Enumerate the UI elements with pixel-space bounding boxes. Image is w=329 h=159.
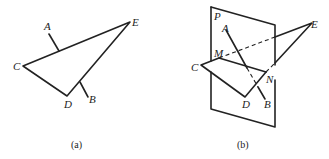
caption-b: (b) — [237, 139, 249, 151]
edge-e — [275, 23, 312, 63]
label-n: N — [265, 73, 274, 85]
caption-a: (a) — [71, 139, 82, 151]
label-d: D — [63, 98, 72, 110]
label-a: A — [221, 22, 229, 34]
figure-a: A E C D B (a) — [13, 16, 139, 151]
label-c: C — [191, 61, 199, 73]
label-m: M — [213, 47, 224, 59]
line-a — [49, 34, 59, 51]
label-a: A — [43, 20, 51, 32]
hidden-ne — [266, 63, 275, 72]
label-b: B — [264, 98, 271, 110]
label-p: P — [213, 10, 221, 22]
hidden-me — [219, 37, 275, 58]
line-b — [80, 82, 88, 97]
figure-b: P A E M C N D B (b) — [191, 7, 318, 151]
diagram-canvas: A E C D B (a) P A E M C N D B (b) — [0, 0, 329, 159]
label-e: E — [131, 16, 139, 28]
triangle-cde — [23, 22, 130, 96]
line-a — [226, 30, 247, 68]
label-d: D — [241, 98, 250, 110]
label-e: E — [310, 18, 318, 30]
label-b: B — [89, 93, 96, 105]
label-c: C — [13, 60, 21, 72]
